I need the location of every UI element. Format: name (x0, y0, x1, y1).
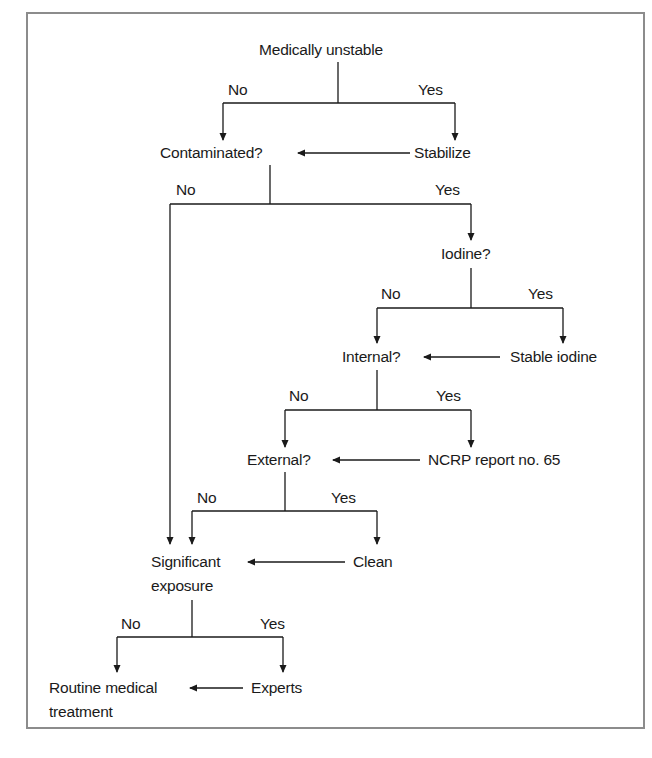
branch-label-yes: Yes (418, 81, 443, 99)
node-significant-exposure: Significant exposure (151, 550, 220, 598)
branch-label-no: No (289, 387, 308, 405)
branch-label-no: No (228, 81, 247, 99)
branch-label-no: No (121, 615, 140, 633)
branch-label-no: No (197, 489, 216, 507)
node-stabilize: Stabilize (414, 141, 471, 165)
node-significant-line2: exposure (151, 574, 220, 598)
branch-label-yes: Yes (435, 181, 460, 199)
node-iodine: Iodine? (441, 242, 490, 266)
node-significant-line1: Significant (151, 550, 220, 574)
flowchart-connectors (0, 0, 652, 758)
node-medically-unstable: Medically unstable (259, 38, 383, 62)
branch-label-yes: Yes (331, 489, 356, 507)
node-routine-medical-treatment: Routine medical treatment (49, 676, 157, 724)
node-clean: Clean (353, 550, 393, 574)
node-ncrp-report: NCRP report no. 65 (428, 448, 560, 472)
branch-label-yes: Yes (260, 615, 285, 633)
node-contaminated: Contaminated? (160, 141, 263, 165)
branch-label-no: No (381, 285, 400, 303)
node-routine-line1: Routine medical (49, 676, 157, 700)
branch-label-no: No (176, 181, 195, 199)
node-experts: Experts (251, 676, 302, 700)
branch-label-yes: Yes (528, 285, 553, 303)
node-routine-line2: treatment (49, 700, 157, 724)
branch-label-yes: Yes (436, 387, 461, 405)
node-internal: Internal? (342, 345, 401, 369)
node-stable-iodine: Stable iodine (510, 345, 597, 369)
node-external: External? (247, 448, 311, 472)
